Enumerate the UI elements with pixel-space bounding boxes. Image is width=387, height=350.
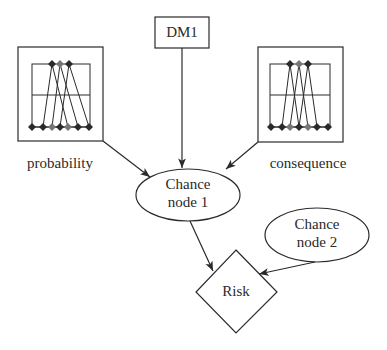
consequence-node[interactable]: [258, 47, 343, 142]
probability-label: probability: [20, 154, 100, 172]
chance-node-2-label: Chance node 2: [265, 215, 369, 251]
edge-chance2-to-risk: [259, 262, 315, 274]
chance-node-1-line1: Chance: [136, 175, 240, 193]
edge-probability-to-chance1: [103, 141, 150, 177]
chance-node-2-line1: Chance: [265, 215, 369, 233]
probability-node[interactable]: [18, 47, 103, 141]
chance-node-1-label: Chance node 1: [136, 175, 240, 211]
chance-node-1-line2: node 1: [136, 193, 240, 211]
consequence-label: consequence: [258, 154, 358, 172]
influence-diagram: DM1 Chance node 1 Chance node 2 Risk pro…: [0, 0, 387, 350]
consequence-chart-icon: [267, 60, 332, 131]
edge-consequence-to-chance1: [226, 142, 258, 169]
chance-node-2-line2: node 2: [265, 233, 369, 251]
edge-chance1-to-risk: [190, 221, 213, 271]
risk-label: Risk: [206, 282, 266, 300]
probability-chart-icon: [28, 60, 93, 131]
dm1-label: DM1: [155, 23, 209, 41]
